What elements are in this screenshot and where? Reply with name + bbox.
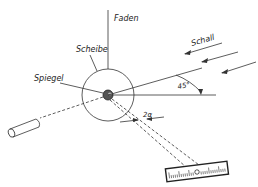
lamp-body xyxy=(10,119,39,137)
label-thread: Faden xyxy=(114,14,139,23)
reflected-beam-2 xyxy=(112,99,199,165)
lamp-back xyxy=(36,119,40,127)
label-disc: Scheibe xyxy=(76,45,108,54)
sound-arrowhead-1 xyxy=(184,50,191,55)
label-deflection: 2α xyxy=(143,111,152,119)
sound-arrowhead-2 xyxy=(201,58,208,63)
label-angle: 45° xyxy=(177,81,191,91)
light-beam-in xyxy=(40,97,103,118)
sound-arrowhead-3 xyxy=(221,69,228,74)
lamp xyxy=(7,119,39,138)
disc-leader xyxy=(90,55,97,71)
label-mirror: Spiegel xyxy=(34,74,64,83)
scale xyxy=(165,161,228,181)
rayleigh-disc-diagram: Faden Scheibe Spiegel Schall 45° 2α xyxy=(0,0,258,187)
angle-arrowhead xyxy=(198,89,203,95)
mirror-leader xyxy=(60,83,103,93)
